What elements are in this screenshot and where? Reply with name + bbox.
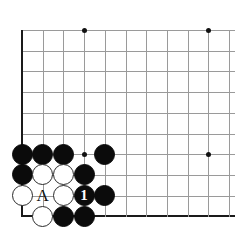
stone-white[interactable] (32, 206, 53, 227)
star-point (82, 28, 87, 33)
stone-black[interactable] (32, 144, 53, 165)
grid-line-horizontal (22, 134, 235, 135)
point-label-a[interactable]: A (34, 187, 52, 205)
stone-black[interactable] (12, 164, 33, 185)
star-point (82, 152, 87, 157)
stone-black[interactable] (74, 206, 95, 227)
grid-line-horizontal (22, 30, 235, 31)
grid-line-vertical (188, 30, 189, 217)
stone-black[interactable] (53, 206, 74, 227)
stone-black[interactable] (94, 144, 115, 165)
stone-white[interactable] (53, 164, 74, 185)
go-board-diagram: A1 (0, 0, 235, 249)
stone-black[interactable] (53, 144, 74, 165)
stone-white[interactable] (12, 185, 33, 206)
grid-line-vertical (229, 30, 230, 217)
grid-line-horizontal (22, 51, 235, 52)
grid-line-vertical (208, 30, 209, 217)
star-point (206, 28, 211, 33)
star-point (206, 152, 211, 157)
grid-line-horizontal (22, 92, 235, 93)
stone-black[interactable] (94, 185, 115, 206)
stone-white[interactable] (32, 164, 53, 185)
stone-black[interactable]: 1 (74, 185, 95, 206)
grid-line-vertical (126, 30, 127, 217)
grid-line-vertical (146, 30, 147, 217)
grid-line-horizontal (22, 113, 235, 114)
stone-move-number: 1 (80, 188, 88, 203)
stone-black[interactable] (74, 164, 95, 185)
goban[interactable]: A1 (0, 0, 235, 249)
stone-white[interactable] (53, 185, 74, 206)
grid-line-vertical (167, 30, 168, 217)
grid-line-horizontal (22, 71, 235, 72)
stone-black[interactable] (12, 144, 33, 165)
